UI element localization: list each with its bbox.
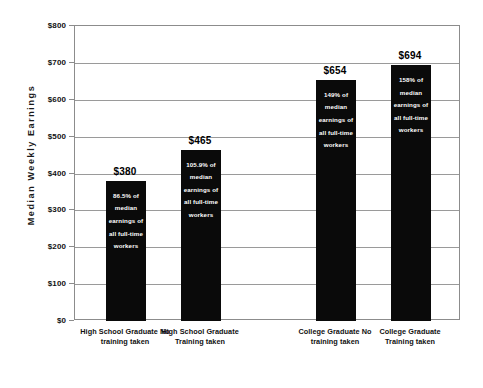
x-axis-category-label: College Graduate Training taken xyxy=(365,327,455,346)
y-axis-tick-label: $400 xyxy=(6,168,66,177)
y-axis-tick-label: $100 xyxy=(6,279,66,288)
bar-chart: Median Weekly Earnings $800$700$600$500$… xyxy=(0,0,483,388)
y-axis-tick-label: $700 xyxy=(6,57,66,66)
y-axis-tick-label: $0 xyxy=(6,316,66,325)
bar-annotation-label: 86.5% of median earnings of all full-tim… xyxy=(106,181,146,253)
bar[interactable]: 149% of median earnings of all full-time… xyxy=(316,80,356,321)
y-axis-tick-mark xyxy=(69,320,74,321)
x-axis-category-label: High School Graduate Training taken xyxy=(155,327,245,346)
bar-value-label: $654 xyxy=(303,65,367,76)
bar-value-label: $465 xyxy=(168,135,232,146)
bar[interactable]: 158% of median earnings of all full-time… xyxy=(391,65,431,321)
bar-value-label: $380 xyxy=(93,166,157,177)
y-axis-tick-label: $800 xyxy=(6,21,66,30)
y-axis-title: Median Weekly Earnings xyxy=(26,40,36,270)
bar[interactable]: 105.9% of median earnings of all full-ti… xyxy=(181,150,221,321)
y-axis-tick-label: $500 xyxy=(6,131,66,140)
bar-annotation-label: 105.9% of median earnings of all full-ti… xyxy=(181,150,221,222)
y-axis-tick-label: $300 xyxy=(6,205,66,214)
bar-annotation-label: 149% of median earnings of all full-time… xyxy=(316,80,356,152)
y-axis-tick-label: $200 xyxy=(6,242,66,251)
gridline xyxy=(75,63,459,64)
bar-annotation-label: 158% of median earnings of all full-time… xyxy=(391,65,431,137)
y-axis-tick-label: $600 xyxy=(6,94,66,103)
bar-value-label: $694 xyxy=(378,50,442,61)
bar[interactable]: 86.5% of median earnings of all full-tim… xyxy=(106,181,146,321)
